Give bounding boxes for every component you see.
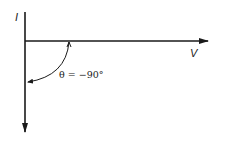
current-axis-label: I (15, 11, 18, 23)
angle-label: θ = −90° (59, 69, 104, 80)
phasor-diagram: I V θ = −90° (0, 0, 226, 155)
voltage-axis-label: V (190, 47, 199, 59)
